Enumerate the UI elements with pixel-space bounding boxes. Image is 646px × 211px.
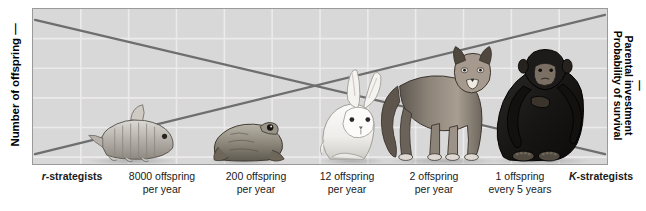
left-axis-label: Number of offspring — [0, 0, 30, 170]
label-rabbit-offspring: 12 offspring per year [300, 170, 394, 195]
label-k-strategists-suffix: -strategists [576, 170, 633, 182]
right-axis-title-line2: Probability of survival [613, 30, 625, 140]
label-fish-offspring: 8000 offspring per year [110, 170, 214, 195]
label-rabbit-line2: per year [328, 183, 367, 195]
label-chimp-line2: every 5 years [488, 183, 551, 195]
label-frog-line2: per year [237, 183, 276, 195]
right-axis-label: — Parental investment Probability of sur… [612, 0, 646, 170]
left-axis-title: Number of offspring [9, 38, 21, 147]
label-cougar-offspring: 2 offspring per year [387, 170, 481, 195]
label-frog-offspring: 200 offspring per year [207, 170, 305, 195]
label-cougar-line1: 2 offspring [410, 170, 459, 182]
label-chimp-line1: 1 offspring [496, 170, 545, 182]
label-cougar-line2: per year [415, 183, 454, 195]
right-axis-dash: — [635, 80, 646, 91]
plot-graphics [33, 9, 607, 164]
label-r-strategists: r-strategists [26, 170, 118, 183]
label-fish-line1: 8000 offspring [129, 170, 195, 182]
label-r-strategists-suffix: -strategists [46, 170, 103, 182]
left-axis-dash: — [9, 23, 21, 34]
label-fish-line2: per year [143, 183, 182, 195]
plot-area [32, 8, 608, 165]
right-axis-title-line1: Parental investment [624, 35, 636, 135]
r-k-selection-diagram: Number of offspring — [0, 0, 646, 211]
label-frog-line1: 200 offspring [226, 170, 287, 182]
label-rabbit-line1: 12 offspring [320, 170, 375, 182]
label-k-strategists: K-strategists [555, 170, 646, 183]
bottom-label-row: r-strategists 8000 offspring per year 20… [0, 170, 646, 211]
